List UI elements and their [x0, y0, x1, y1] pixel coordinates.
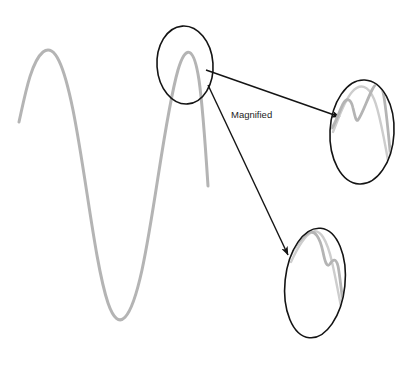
magnified-waveform-figure: Magnified [0, 0, 412, 365]
figure-canvas: Magnified [0, 0, 412, 365]
magnified-label: Magnified [231, 109, 272, 120]
figure-background [0, 0, 412, 365]
